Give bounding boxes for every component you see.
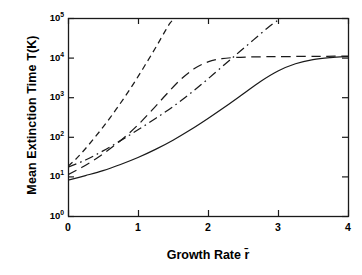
plot-area bbox=[0, 0, 362, 275]
x-tick-label: 2 bbox=[193, 221, 223, 233]
x-tick-label: 1 bbox=[123, 221, 153, 233]
x-tick-label: 0 bbox=[53, 221, 83, 233]
figure-container: Mean Extinction Time T(K) 10010110210310… bbox=[0, 0, 362, 275]
x-axis-label: Growth Rate r̄ bbox=[68, 248, 348, 262]
series-plateau-long-dashed bbox=[68, 56, 348, 175]
x-tick-label: 4 bbox=[333, 221, 362, 233]
series-dash-dot bbox=[68, 18, 282, 167]
x-tick-label: 3 bbox=[263, 221, 293, 233]
series-steep-dashed bbox=[68, 18, 174, 166]
series-group bbox=[68, 18, 348, 180]
